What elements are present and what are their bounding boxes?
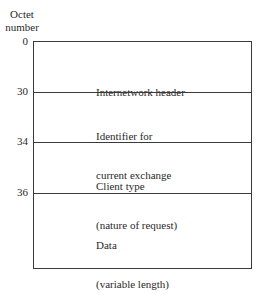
axis-title-line1: Octet [0,8,44,21]
field-label: Data (variable length) [96,213,169,295]
field-client-type: Client type (nature of request) [34,142,251,193]
tick-offset-34: 34 [4,135,28,147]
tick-offset-30: 30 [4,85,28,97]
packet-format-box: Internetwork header Identifier for curre… [33,41,252,269]
tick-offset-0: 0 [4,35,28,47]
octet-number-axis-title: Octet number [0,8,44,34]
tick-offset-36: 36 [4,186,28,198]
field-data: Data (variable length) [34,193,251,268]
field-internetwork-header: Internetwork header [34,42,251,92]
axis-title-line2: number [0,21,44,34]
field-identifier: Identifier for current exchange [34,92,251,142]
